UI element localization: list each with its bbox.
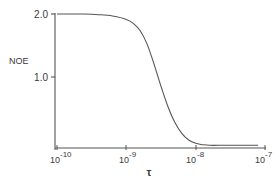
x-axis-label: τ bbox=[147, 166, 152, 177]
y-tick-label-1: 1.0 bbox=[34, 72, 48, 83]
noe-chart: 2.0 1.0 NOE 10 -10 10 -9 10 -8 10 -7 τ bbox=[0, 0, 279, 177]
noe-curve bbox=[57, 14, 258, 145]
y-tick-label-2: 2.0 bbox=[34, 9, 48, 20]
svg-text:10: 10 bbox=[50, 155, 60, 165]
svg-text:10: 10 bbox=[119, 155, 129, 165]
x-tick-label-3: 10 -7 bbox=[255, 150, 273, 165]
x-tick-label-1: 10 -9 bbox=[119, 150, 137, 165]
svg-text:10: 10 bbox=[255, 155, 265, 165]
svg-text:-9: -9 bbox=[129, 150, 137, 159]
x-tick-label-2: 10 -8 bbox=[186, 150, 205, 165]
y-axis-label: NOE bbox=[9, 56, 29, 66]
svg-text:-10: -10 bbox=[60, 150, 72, 159]
svg-text:-7: -7 bbox=[265, 150, 273, 159]
svg-text:10: 10 bbox=[186, 155, 196, 165]
x-tick-label-0: 10 -10 bbox=[50, 150, 72, 165]
svg-text:-8: -8 bbox=[197, 150, 205, 159]
